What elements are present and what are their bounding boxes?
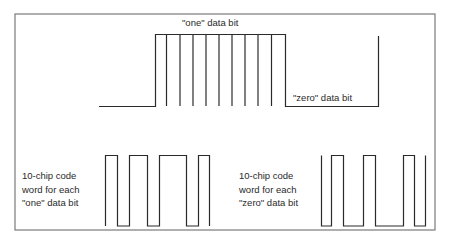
one-code-word-label-line-2: word for each <box>22 183 80 197</box>
zero-code-word-label-line-1: 10-chip code <box>239 169 298 183</box>
one-code-word-label: 10-chip code word for each "one" data bi… <box>22 169 80 210</box>
zero-code-word-label-line-3: "zero" data bit <box>239 196 298 210</box>
one-code-word-label-line-3: "one" data bit <box>22 196 80 210</box>
zero-code-word-waveform <box>322 156 426 227</box>
chip-ticks <box>167 35 272 107</box>
zero-code-word-label: 10-chip code word for each "zero" data b… <box>239 169 298 210</box>
zero-data-bit-label: "zero" data bit <box>293 91 352 105</box>
one-code-word-label-line-1: 10-chip code <box>22 169 80 183</box>
one-data-bit-label: "one" data bit <box>182 16 238 30</box>
one-code-word-waveform <box>106 156 210 227</box>
zero-code-word-label-line-2: word for each <box>239 183 298 197</box>
